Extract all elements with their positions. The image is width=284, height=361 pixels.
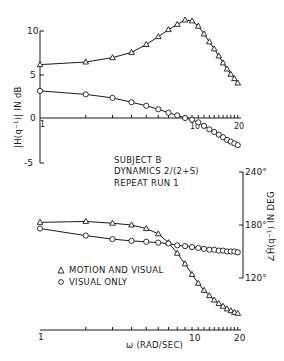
circle-marker-icon [175,243,180,248]
mag-xtick-20: 20 [234,122,244,131]
circle-marker-icon [156,240,161,245]
triangle-marker-icon [143,42,149,47]
phase-xtick-10: 10 [189,333,201,343]
phase-xtick-1: 1 [38,332,44,342]
triangle-marker-icon [83,218,89,223]
circle-marker-icon [196,245,201,250]
legend-visual-only: VISUAL ONLY [69,277,128,287]
mag-xtick-1: 1 [40,120,45,129]
phase-ylabel: ∠Ĥ(q⁻¹) IN DEG [265,191,276,262]
mag-ytick-10: 10 [27,26,39,36]
circle-marker-icon [207,247,212,252]
circle-marker-icon [37,226,42,231]
phase-ytick-120: 120° [245,273,267,283]
circle-marker-icon [144,239,149,244]
circle-marker-icon [166,241,171,246]
mag-ylabel: |H(q⁻¹)| IN dB [13,86,23,148]
triangle-marker-icon [182,17,188,22]
series-line [40,20,238,83]
circle-marker-icon [189,244,194,249]
subject-label: SUBJECT B [114,155,162,165]
mag-ytick-neg5: -5 [24,158,33,168]
circle-marker-icon [110,237,115,242]
phase-ytick-180: 180° [245,220,267,230]
legend-motion-visual: MOTION AND VISUAL [69,265,163,275]
circle-marker-icon [182,244,187,249]
circle-marker-icon [129,238,134,243]
legend: MOTION AND VISUAL VISUAL ONLY [58,265,163,287]
circle-marker-icon [207,127,212,132]
circle-marker-icon [156,107,161,112]
circle-marker-icon [110,95,115,100]
phase-xtick-20: 20 [234,333,246,343]
circle-marker-icon [37,88,42,93]
triangle-marker-icon [174,21,180,26]
mag-ytick-5: 5 [30,70,36,80]
circle-marker-icon [201,123,206,128]
magnitude-series [37,17,240,148]
run-label: REPEAT RUN 1 [114,178,179,188]
triangle-marker-icon [220,60,226,65]
phase-ytick-240: 240° [245,167,267,177]
triangle-marker-icon [166,27,172,32]
triangle-marker-icon [58,267,64,273]
circle-marker-icon [129,100,134,105]
circle-marker-icon [166,110,171,115]
circle-marker-icon [235,250,240,255]
circle-marker-icon [182,115,187,120]
circle-marker-icon [59,280,64,285]
circle-marker-icon [201,246,206,251]
circle-marker-icon [83,233,88,238]
magnitude-axes [40,31,241,163]
bode-plot: 10 5 0 -5 1 10 20 |H(q⁻¹)| IN dB SUBJECT… [0,0,284,361]
dynamics-label: DYNAMICS 2/(2+S) [114,166,199,176]
triangle-marker-icon [155,34,161,39]
mag-ytick-0: 0 [30,113,36,123]
circle-marker-icon [189,117,194,122]
circle-marker-icon [235,143,240,148]
circle-marker-icon [175,113,180,118]
circle-marker-icon [144,103,149,108]
circle-marker-icon [83,92,88,97]
x-axis-label: ω (RAD/SEC) [126,340,183,350]
circle-marker-icon [196,120,201,125]
